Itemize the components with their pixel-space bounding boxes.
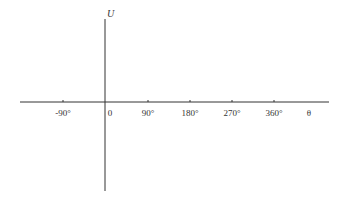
tick-label-neg90: -90° bbox=[55, 108, 71, 118]
origin-label: 0 bbox=[108, 108, 113, 118]
y-axis-label: U bbox=[107, 8, 115, 19]
tick-label-180: 180° bbox=[181, 108, 199, 118]
x-axis-label: θ bbox=[307, 108, 311, 118]
tick-label-270: 270° bbox=[223, 108, 241, 118]
axes-diagram: U -90° 0 90° 180° 270° 360° θ bbox=[0, 0, 348, 202]
tick-label-90: 90° bbox=[142, 108, 155, 118]
tick-label-360: 360° bbox=[265, 108, 283, 118]
